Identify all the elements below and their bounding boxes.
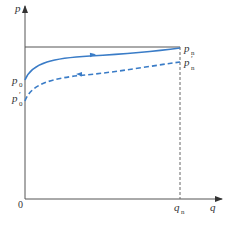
x-axis-label: q bbox=[210, 201, 216, 213]
svg-text:n: n bbox=[191, 64, 195, 72]
svg-text:q: q bbox=[210, 201, 216, 213]
svg-text:0: 0 bbox=[19, 81, 23, 89]
svg-text:p: p bbox=[183, 56, 190, 68]
solid-curve bbox=[25, 48, 180, 80]
label-qn: q n bbox=[174, 201, 185, 216]
label-p0-prime: p ′ 0 bbox=[11, 91, 23, 108]
diagram-canvas: p q 0 p n p ′ n p 0 p ′ 0 q n bbox=[0, 0, 229, 227]
svg-text:p: p bbox=[183, 42, 190, 54]
svg-text:′: ′ bbox=[191, 55, 193, 64]
svg-text:0: 0 bbox=[19, 100, 23, 108]
dashed-curve bbox=[25, 62, 180, 101]
label-pn-prime: p ′ n bbox=[183, 55, 195, 72]
svg-text:p: p bbox=[11, 74, 18, 86]
svg-text:′: ′ bbox=[19, 91, 21, 100]
y-axis-label: p bbox=[14, 2, 21, 14]
svg-text:q: q bbox=[174, 201, 180, 213]
svg-text:p: p bbox=[14, 2, 21, 14]
svg-text:0: 0 bbox=[18, 199, 23, 210]
svg-text:n: n bbox=[181, 208, 185, 216]
pq-diagram: p q 0 p n p ′ n p 0 p ′ 0 q n bbox=[0, 0, 229, 227]
svg-text:p: p bbox=[11, 92, 18, 104]
origin-label: 0 bbox=[18, 199, 23, 210]
label-pn: p n bbox=[183, 42, 195, 57]
label-p0: p 0 bbox=[11, 74, 23, 89]
